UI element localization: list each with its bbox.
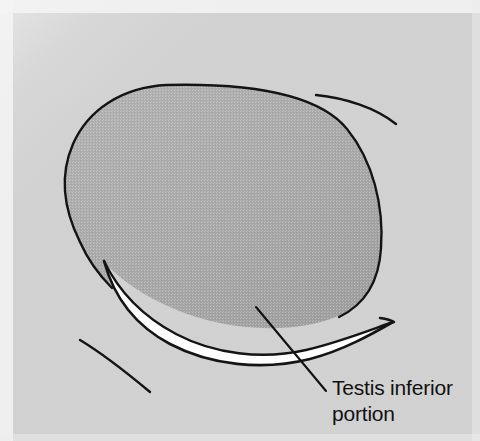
label-testis-inferior-portion-line1: Testis inferior (332, 376, 453, 399)
scan-margin-right (472, 0, 480, 441)
scan-margin-left (0, 0, 13, 441)
illustration-canvas: Testis inferior portion (0, 0, 480, 441)
anatomical-figure: Testis inferior portion (0, 0, 480, 441)
scan-margin-top (0, 0, 480, 13)
label-testis-inferior-portion-line2: portion (332, 402, 395, 425)
scan-margin-bottom (0, 434, 480, 441)
